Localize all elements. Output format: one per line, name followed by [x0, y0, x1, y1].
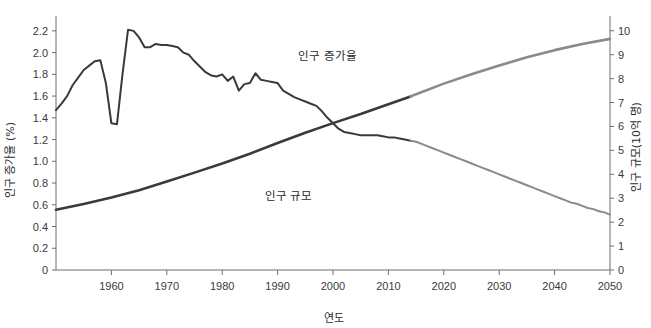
x-axis-tick-label: 2030: [487, 280, 511, 292]
x-axis-tick-label: 1970: [155, 280, 179, 292]
x-axis-tick-label: 2020: [432, 280, 456, 292]
y-axis-left-tick-label: 1.8: [33, 68, 48, 80]
population-chart: 00.20.40.60.81.01.21.41.61.82.02.2 01234…: [0, 0, 651, 328]
y-axis-left-tick-label: 1.0: [33, 155, 48, 167]
y-axis-right-tick-label: 10: [618, 25, 630, 37]
x-axis-tick-label: 2010: [376, 280, 400, 292]
series-line-projection: [411, 39, 610, 97]
chart-canvas: 00.20.40.60.81.01.21.41.61.82.02.2 01234…: [0, 0, 651, 328]
x-axis-tick-label: 1980: [210, 280, 234, 292]
series-annotation-2: 인구 규모: [265, 189, 313, 203]
x-axis-tick-label: 1960: [99, 280, 123, 292]
y-axis-left: 00.20.40.60.81.01.21.41.61.82.02.2: [33, 16, 56, 276]
y-axis-right-tick-label: 9: [618, 49, 624, 61]
y-axis-right-tick-label: 6: [618, 120, 624, 132]
x-axis-tick-label: 1990: [265, 280, 289, 292]
y-axis-right-tick-label: 3: [618, 192, 624, 204]
y-axis-right-tick-label: 1: [618, 240, 624, 252]
y-axis-right-tick-label: 2: [618, 216, 624, 228]
y-axis-left-tick-label: 0: [42, 264, 48, 276]
y-axis-left-tick-label: 0.6: [33, 199, 48, 211]
y-axis-left-tick-label: 0.4: [33, 221, 48, 233]
x-axis-tick-label: 2040: [542, 280, 566, 292]
y-axis-left-tick-label: 1.2: [33, 134, 48, 146]
y-axis-left-tick-label: 1.6: [33, 90, 48, 102]
x-axis-tick-label: 2050: [598, 280, 622, 292]
y-axis-right-tick-label: 7: [618, 97, 624, 109]
y-axis-right-title: 인구 규모(10억 명): [630, 102, 643, 192]
y-axis-left-tick-label: 0.8: [33, 177, 48, 189]
y-axis-right-tick-label: 4: [618, 168, 624, 180]
y-axis-left-tick-label: 2.2: [33, 25, 48, 37]
y-axis-right-tick-label: 5: [618, 144, 624, 156]
series-line-projection: [411, 141, 610, 215]
series-line-historical: [56, 30, 411, 141]
y-axis-left-tick-label: 1.4: [33, 112, 48, 124]
y-axis-left-tick-label: 0.2: [33, 242, 48, 254]
y-axis-right-tick-label: 8: [618, 73, 624, 85]
x-axis-title: 연도: [324, 312, 344, 325]
x-axis: 1960197019801990200020102020203020402050: [56, 270, 622, 292]
y-axis-left-title: 인구 증가율 (%): [4, 122, 17, 198]
y-axis-left-tick-label: 2.0: [33, 47, 48, 59]
y-axis-right: 012345678910: [610, 16, 630, 276]
x-axis-tick-label: 2000: [321, 280, 345, 292]
series-annotation-1: 인구 증가율: [298, 49, 357, 63]
annotation-layer: 인구 증가율인구 규모: [265, 49, 357, 203]
y-axis-right-tick-label: 0: [618, 264, 624, 276]
